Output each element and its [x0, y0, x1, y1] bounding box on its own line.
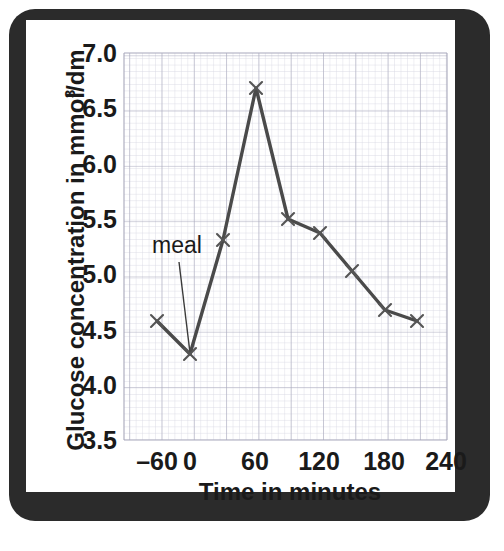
x-tick-label: 120	[298, 447, 340, 475]
x-tick-label: –60	[136, 447, 178, 475]
x-axis-title: Time in minutes	[199, 478, 381, 505]
y-axis-title-group: Glucose concentration in mmol/dm 3	[61, 49, 89, 450]
y-axis-title: Glucose concentration in mmol/dm	[62, 49, 89, 450]
chart-canvas: 7.0 6.5 6.0 5.5 5.0 4.5 4.0 3.5 –60 0 60…	[0, 0, 504, 551]
y-axis-title-superscript: 3	[61, 90, 78, 98]
x-tick-labels: –60 0 60 120 180 240	[136, 447, 467, 475]
x-tick-label: 60	[241, 447, 269, 475]
glucose-chart-figure: 7.0 6.5 6.0 5.5 5.0 4.5 4.0 3.5 –60 0 60…	[0, 0, 504, 551]
meal-annotation-label: meal	[152, 232, 202, 258]
x-tick-label: 180	[363, 447, 405, 475]
x-tick-label: 240	[425, 447, 467, 475]
x-tick-label: 0	[183, 447, 197, 475]
